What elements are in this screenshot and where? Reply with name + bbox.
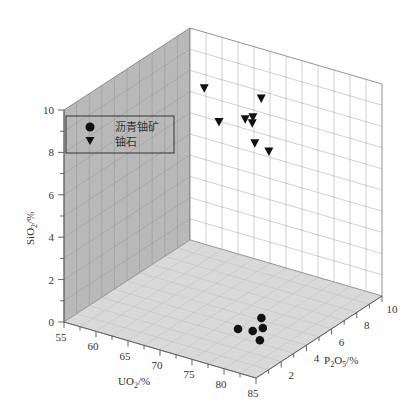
legend-circle-icon [86, 123, 95, 132]
data-point-circle [234, 325, 243, 334]
data-point-circle [256, 336, 265, 345]
z-axis-label: SiO2/% [24, 212, 39, 245]
z-tick-label: 10 [43, 104, 55, 116]
legend-label-coffinite: 铀石 [115, 135, 137, 148]
x-tick-label: 75 [184, 368, 196, 380]
legend-label-pitchblende: 沥青铀矿 [115, 120, 159, 133]
y-tick-label: 4 [314, 352, 320, 364]
x-axis-label: UO2/% [118, 375, 150, 390]
y-tick-label: 6 [339, 336, 345, 348]
y-axis-label: P2O5/% [324, 354, 358, 369]
x-tick-label: 65 [120, 350, 132, 362]
x-tick-label: 55 [56, 331, 68, 343]
data-point-circle [248, 327, 257, 336]
y-tick-label: 10 [387, 303, 399, 315]
z-tick-label: 4 [49, 231, 55, 243]
z-tick-label: 0 [49, 316, 55, 328]
x-tick-label: 70 [152, 359, 164, 371]
y-tick-label: 2 [288, 369, 294, 381]
x-tick-label: 80 [216, 378, 228, 390]
z-tick-label: 6 [49, 189, 55, 201]
data-point-circle [259, 324, 268, 333]
scatter-3d-chart: 556065707580852468100246810 沥青铀矿 铀石 SiO2… [0, 0, 410, 420]
x-tick-label: 60 [88, 340, 100, 352]
data-point-circle [257, 314, 266, 323]
chart-panes [64, 28, 382, 378]
chart-canvas: 556065707580852468100246810 沥青铀矿 铀石 SiO2… [0, 0, 410, 420]
y-tick-label: 8 [364, 319, 370, 331]
z-tick-label: 2 [49, 274, 55, 286]
x-tick-label: 85 [248, 387, 260, 399]
z-tick-label: 8 [49, 146, 55, 158]
